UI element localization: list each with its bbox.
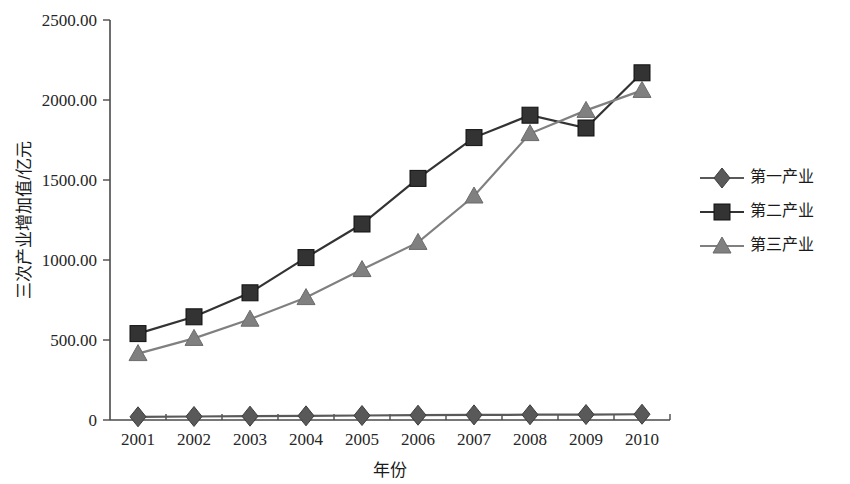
- data-point-diamond: [354, 406, 370, 426]
- x-tick-label: 2009: [569, 430, 603, 449]
- y-tick-label: 2000.00: [42, 91, 97, 110]
- chart-container: 0500.001000.001500.002000.002500.00 2001…: [0, 0, 850, 484]
- data-point-diamond: [298, 406, 314, 426]
- data-point-triangle: [633, 81, 651, 97]
- line-chart: 0500.001000.001500.002000.002500.00 2001…: [0, 0, 850, 484]
- data-point-square: [634, 65, 650, 81]
- data-point-square: [186, 309, 202, 325]
- data-point-square: [522, 107, 538, 123]
- x-tick-label: 2010: [625, 430, 659, 449]
- x-tick-label: 2007: [457, 430, 492, 449]
- data-point-square: [354, 216, 370, 232]
- data-point-diamond: [522, 405, 538, 425]
- series-line: [138, 90, 642, 353]
- y-tick-label: 0: [89, 411, 98, 430]
- x-tick-label: 2006: [401, 430, 435, 449]
- data-point-diamond: [578, 405, 594, 425]
- data-point-diamond: [634, 404, 650, 424]
- data-series-layer: [129, 65, 651, 427]
- y-axis-title: 三次产业增加值/亿元: [15, 141, 34, 299]
- legend-label-3: 第三产业: [750, 236, 814, 253]
- x-tick-label: 2001: [121, 430, 155, 449]
- x-tick-label: 2003: [233, 430, 267, 449]
- data-point-square: [578, 120, 594, 136]
- series-1: [130, 404, 650, 427]
- y-tick-label: 1500.00: [42, 171, 97, 190]
- chart-legend: 第一产业第二产业第三产业: [700, 168, 814, 253]
- data-point-triangle: [297, 289, 315, 305]
- legend-label-2: 第二产业: [750, 202, 814, 219]
- x-tick-label: 2005: [345, 430, 379, 449]
- y-tick-label: 2500.00: [42, 11, 97, 30]
- data-point-triangle: [353, 261, 371, 277]
- y-axis-ticks: 0500.001000.001500.002000.002500.00: [42, 11, 110, 430]
- data-point-square: [466, 130, 482, 146]
- series-line: [138, 414, 642, 417]
- data-point-square: [410, 170, 426, 186]
- x-tick-label: 2002: [177, 430, 211, 449]
- data-point-diamond: [130, 407, 146, 427]
- data-point-triangle: [241, 310, 259, 326]
- data-point-diamond: [714, 168, 730, 188]
- data-point-triangle: [577, 101, 595, 117]
- legend-label-1: 第一产业: [750, 168, 814, 185]
- data-point-diamond: [410, 405, 426, 425]
- data-point-diamond: [186, 406, 202, 426]
- series-2: [130, 65, 650, 342]
- data-point-square: [298, 250, 314, 266]
- y-tick-label: 1000.00: [42, 251, 97, 270]
- data-point-square: [242, 285, 258, 301]
- y-tick-label: 500.00: [50, 331, 97, 350]
- data-point-square: [130, 326, 146, 342]
- data-point-diamond: [466, 405, 482, 425]
- data-point-triangle: [521, 125, 539, 141]
- series-line: [138, 73, 642, 334]
- x-tick-label: 2008: [513, 430, 547, 449]
- x-axis-title: 年份: [373, 461, 407, 480]
- data-point-diamond: [242, 406, 258, 426]
- data-point-square: [714, 204, 730, 220]
- series-3: [129, 81, 651, 360]
- x-tick-label: 2004: [289, 430, 324, 449]
